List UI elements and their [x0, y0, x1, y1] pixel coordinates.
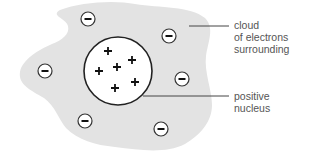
nucleus-label: positive nucleus — [234, 90, 270, 114]
electron-icon — [81, 12, 95, 26]
electron-icon — [175, 72, 189, 86]
electron-icon — [78, 114, 92, 128]
electron-icon — [154, 122, 168, 136]
cloud-label-line: cloud — [234, 19, 289, 31]
electron-icon — [38, 64, 52, 78]
cloud-label-line: surrounding — [234, 43, 289, 55]
nucleus-label-line: nucleus — [234, 102, 270, 114]
nucleus — [84, 37, 152, 105]
cloud-label-line: of electrons — [234, 31, 289, 43]
cloud-label: cloud of electrons surrounding — [234, 19, 289, 55]
nucleus-label-line: positive — [234, 90, 270, 102]
electron-icon — [162, 29, 176, 43]
